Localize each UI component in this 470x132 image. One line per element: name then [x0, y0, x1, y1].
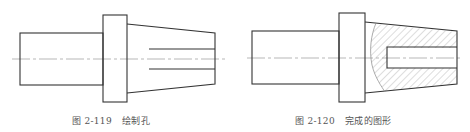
flange	[339, 13, 365, 102]
section-hatching	[362, 20, 457, 98]
hole-outline	[387, 47, 457, 68]
flange	[103, 15, 127, 102]
drawing-hole-lines	[0, 0, 235, 132]
shaft-body	[252, 31, 339, 84]
figure-left: 图 2-119绘制孔	[0, 0, 235, 132]
caption-left: 图 2-119绘制孔	[72, 114, 150, 127]
drawing-completed	[235, 0, 470, 132]
figure-right: 图 2-120完成的图形	[235, 0, 470, 132]
caption-right: 图 2-120完成的图形	[295, 114, 391, 127]
caption-title: 绘制孔	[122, 116, 150, 126]
caption-title: 完成的图形	[345, 116, 392, 126]
taper-outline	[127, 24, 215, 93]
caption-number: 图 2-120	[295, 116, 335, 126]
caption-number: 图 2-119	[72, 116, 112, 126]
